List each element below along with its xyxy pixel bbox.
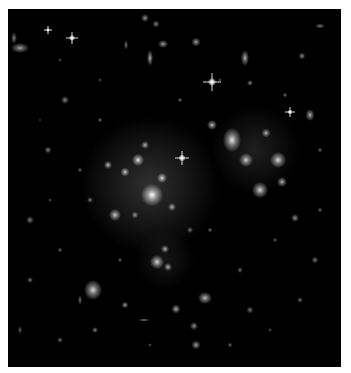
galaxy (318, 148, 323, 153)
galaxy (172, 305, 181, 314)
galaxy (39, 119, 42, 122)
galaxy (237, 267, 243, 273)
galaxy (299, 53, 306, 60)
galaxy (273, 238, 278, 243)
galaxy (138, 319, 150, 322)
galaxy (141, 141, 149, 149)
galaxy (315, 24, 325, 29)
galaxy (207, 120, 217, 130)
galaxy (92, 327, 98, 333)
galaxy (27, 277, 33, 283)
galaxy (192, 341, 201, 350)
galaxy (87, 197, 93, 203)
galaxy (78, 168, 83, 173)
galaxy (228, 343, 233, 348)
galaxy (192, 38, 201, 47)
galaxy (98, 78, 102, 82)
galaxy (118, 258, 123, 263)
galaxy (141, 184, 163, 206)
cluster-glow (135, 230, 195, 290)
galaxy (48, 198, 52, 202)
galaxy (252, 182, 268, 198)
galaxy (312, 257, 319, 264)
galaxy (57, 337, 63, 343)
galaxy (178, 98, 183, 103)
galaxy (98, 118, 103, 123)
galaxy (190, 322, 198, 330)
galaxy (11, 43, 29, 53)
galaxy (45, 147, 52, 154)
galaxy (268, 328, 272, 332)
galaxy (247, 307, 254, 314)
galaxy (147, 50, 153, 66)
galaxy (58, 248, 63, 253)
galaxy (121, 168, 130, 177)
galaxy (198, 292, 212, 304)
galaxy (157, 173, 167, 183)
galaxy (78, 295, 82, 305)
galaxy (283, 93, 288, 98)
galaxy (297, 297, 303, 303)
galaxy (270, 152, 286, 168)
galaxy (150, 255, 164, 269)
galaxy (104, 161, 112, 169)
galaxy (318, 208, 323, 213)
galaxy (148, 343, 152, 347)
galaxy (153, 21, 160, 28)
galaxy (187, 227, 193, 233)
galaxy (18, 326, 22, 334)
galaxy (132, 212, 139, 219)
galaxy (132, 154, 144, 166)
galaxy (239, 153, 253, 167)
galaxy (241, 50, 249, 66)
galaxy (141, 14, 149, 22)
galaxy (11, 32, 17, 44)
galaxy (208, 228, 213, 233)
galaxy (247, 80, 253, 86)
galaxy (223, 128, 241, 152)
galaxy (124, 40, 128, 50)
galaxy (58, 58, 62, 62)
deep-field-image (8, 9, 341, 367)
galaxy (277, 177, 287, 187)
galaxy (262, 129, 271, 138)
galaxy (158, 40, 168, 48)
galaxy (291, 214, 299, 222)
galaxy (26, 216, 34, 224)
galaxy (161, 245, 169, 253)
galaxy (84, 280, 102, 300)
galaxy (306, 109, 315, 121)
galaxy (122, 302, 129, 309)
galaxy (168, 203, 176, 211)
galaxy (109, 209, 121, 221)
galaxy (61, 96, 69, 104)
galaxy (164, 263, 172, 271)
